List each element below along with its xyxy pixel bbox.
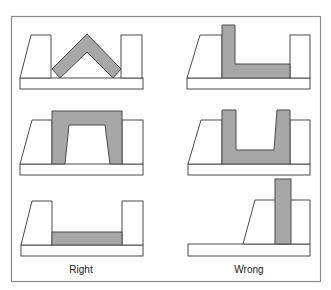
left-block (21, 201, 52, 245)
right-block (290, 120, 310, 164)
left-block (187, 35, 222, 78)
right-block (121, 35, 142, 78)
left-block (20, 35, 51, 78)
label-wrong: Wrong (234, 264, 263, 275)
panel-wrong-1 (187, 25, 310, 89)
panel-wrong-3 (188, 179, 310, 256)
right-block (122, 120, 143, 164)
vertical-bar-part (275, 179, 291, 244)
base-plate (188, 244, 310, 256)
l-shaped-part (222, 25, 290, 78)
diagram: Right Wrong (0, 0, 331, 290)
panel-right-1 (20, 34, 143, 89)
label-right: Right (69, 264, 93, 275)
base-plate (20, 164, 143, 175)
panel-wrong-2 (188, 110, 310, 175)
right-block (290, 35, 310, 78)
left-block (20, 120, 52, 164)
arch-part (52, 111, 122, 164)
chevron-part (52, 34, 121, 78)
right-block (122, 201, 143, 245)
base-plate (21, 245, 143, 256)
left-block (188, 120, 222, 164)
u-shaped-part (222, 110, 290, 164)
panel-right-3 (21, 201, 143, 256)
base-plate (188, 164, 310, 175)
flat-strip-part (52, 232, 122, 245)
base-plate (20, 78, 143, 89)
panel-right-2 (20, 111, 143, 175)
base-plate (187, 78, 310, 89)
